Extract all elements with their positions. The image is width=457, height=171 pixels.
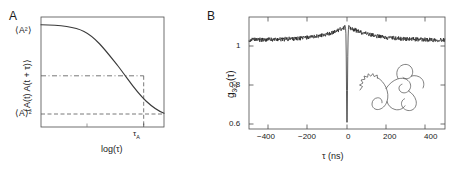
panel-b-data-trace xyxy=(249,25,445,122)
panel-b: B g300(τ) τ (ns) 1 0.8 0.6 −400 −200 0 2… xyxy=(0,0,457,171)
polymer-coil-sketch xyxy=(360,64,424,110)
panel-b-plot xyxy=(0,0,457,171)
